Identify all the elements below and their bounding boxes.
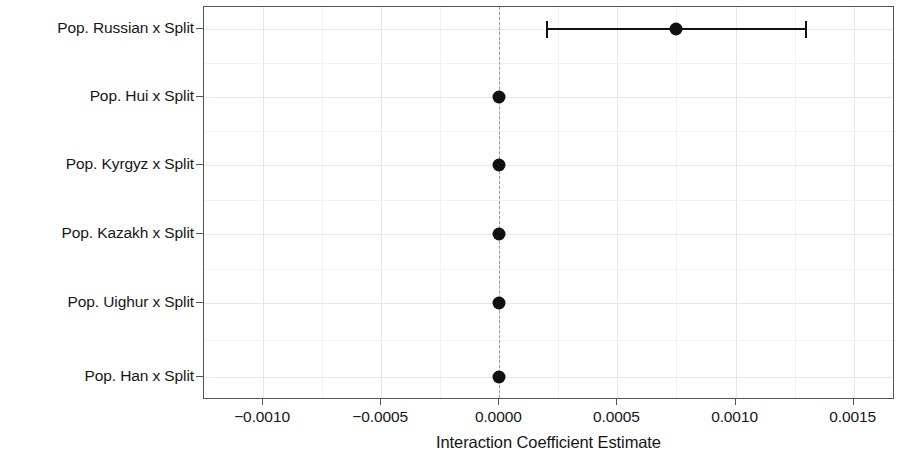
- y-axis-tick: [196, 28, 203, 29]
- plot-panel: [203, 6, 894, 399]
- y-axis-tick: [196, 302, 203, 303]
- gridline-horizontal-minor: [204, 63, 893, 64]
- gridline-horizontal: [204, 97, 893, 98]
- x-axis-tick-label: 0.0005: [593, 408, 640, 426]
- coefficient-plot-figure: Pop. Russian x SplitPop. Hui x SplitPop.…: [0, 0, 899, 460]
- y-axis-tick: [196, 376, 203, 377]
- x-axis-tick: [735, 399, 736, 405]
- y-axis-tick-label: Pop. Kazakh x Split: [61, 224, 194, 242]
- zero-reference-line: [499, 7, 500, 398]
- gridline-horizontal-minor: [204, 340, 893, 341]
- y-axis-tick-label: Pop. Russian x Split: [57, 19, 194, 37]
- y-axis-tick-label: Pop. Han x Split: [84, 367, 194, 385]
- x-axis-tick: [498, 399, 499, 405]
- x-axis-title: Interaction Coefficient Estimate: [203, 433, 894, 452]
- point-marker: [493, 371, 506, 384]
- x-axis-tick: [853, 399, 854, 405]
- gridline-horizontal: [204, 234, 893, 235]
- x-axis-tick-label: −0.0005: [352, 408, 408, 426]
- point-marker: [493, 228, 506, 241]
- x-axis-tick-label: 0.0010: [711, 408, 758, 426]
- gridline-horizontal-minor: [204, 269, 893, 270]
- y-axis-tick-label: Pop. Uighur x Split: [68, 293, 194, 311]
- y-axis-tick: [196, 164, 203, 165]
- gridline-horizontal-minor: [204, 131, 893, 132]
- y-axis-tick-label: Pop. Hui x Split: [90, 87, 194, 105]
- error-bar-cap-low: [546, 21, 548, 38]
- gridline-horizontal: [204, 377, 893, 378]
- error-bar-cap-high: [805, 21, 807, 38]
- x-axis-tick: [380, 399, 381, 405]
- y-axis-tick: [196, 96, 203, 97]
- x-axis-tick-label: −0.0010: [234, 408, 290, 426]
- y-axis-tick: [196, 233, 203, 234]
- x-axis-tick: [616, 399, 617, 405]
- point-marker: [493, 297, 506, 310]
- y-axis-tick-label: Pop. Kyrgyz x Split: [66, 155, 194, 173]
- point-marker: [493, 91, 506, 104]
- point-marker: [670, 23, 683, 36]
- point-marker: [493, 159, 506, 172]
- gridline-horizontal: [204, 303, 893, 304]
- x-axis-tick-label: 0.0015: [829, 408, 876, 426]
- gridline-horizontal-minor: [204, 200, 893, 201]
- gridline-horizontal: [204, 165, 893, 166]
- x-axis-tick-label: 0.0000: [475, 408, 522, 426]
- x-axis-tick: [262, 399, 263, 405]
